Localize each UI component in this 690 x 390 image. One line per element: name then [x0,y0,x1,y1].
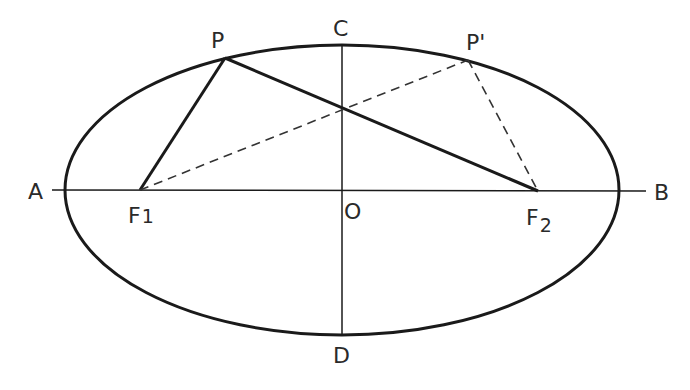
segment-pprime-f2 [468,60,538,191]
label-f2-subscript: 2 [540,214,552,236]
label-p: P [211,28,224,53]
segment-f1-pprime [140,60,468,190]
label-f1-subscript: 1 [142,205,154,227]
label-d: D [333,343,350,368]
label-a: A [28,179,43,204]
label-p-prime: P' [466,30,485,55]
label-o: O [344,199,361,224]
label-f2: F2 [526,205,552,236]
label-f2-letter: F [526,205,539,230]
segment-p-f2 [225,58,538,191]
label-f1: F1 [128,203,154,228]
ellipse-diagram: A B C D O P P' F1 F2 [0,0,690,390]
label-c: C [333,16,348,41]
segment-f1-p [140,58,225,190]
label-b: B [654,180,669,205]
label-f1-letter: F [128,203,141,228]
